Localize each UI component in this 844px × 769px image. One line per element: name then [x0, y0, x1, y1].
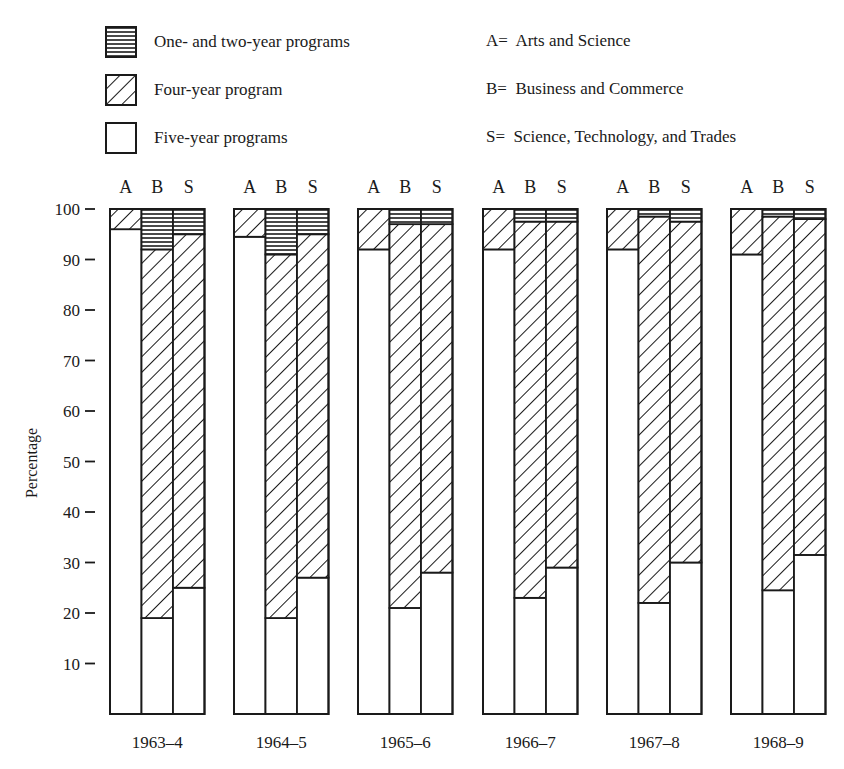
bar-segment-five: [670, 563, 702, 715]
bar-segment-five: [794, 555, 826, 714]
bar-group: ABS1967–8: [607, 177, 702, 752]
bar-segment-four: [173, 234, 205, 588]
y-tick-label: 20: [63, 604, 80, 623]
bar-segment-five: [266, 618, 298, 714]
bar-segment-four: [763, 217, 795, 591]
bar-letter-label: S: [308, 177, 318, 197]
bar-segment-one-two: [670, 209, 702, 222]
x-category-label: 1965–6: [380, 733, 431, 752]
bar-group: ABS1965–6: [358, 177, 453, 752]
bar-segment-one-two: [266, 209, 298, 254]
y-tick-label: 80: [63, 301, 80, 320]
bar-segment-four: [731, 209, 763, 254]
y-tick-label: 70: [63, 352, 80, 371]
bar-letter-label: B: [772, 177, 784, 197]
bar-segment-four: [546, 222, 578, 568]
bar-segment-five: [546, 568, 578, 714]
y-tick-label: 10: [63, 655, 80, 674]
bar-segment-one-two: [546, 209, 578, 222]
bar-segment-five: [639, 603, 671, 714]
bar-segment-one-two: [142, 209, 174, 249]
bar-segment-four: [794, 219, 826, 555]
bar-group: ABS1964–5: [234, 177, 329, 752]
y-tick-label: 50: [63, 453, 80, 472]
bar-segment-five: [390, 608, 422, 714]
x-category-label: 1964–5: [256, 733, 307, 752]
bar-segment-four: [390, 224, 422, 608]
bar-segment-four: [234, 209, 266, 237]
bar-letter-label: S: [557, 177, 567, 197]
bar-letter-label: A: [367, 177, 380, 197]
bar-segment-five: [483, 249, 515, 714]
bar-group: ABS1963–4: [110, 177, 205, 752]
bar-segment-five: [763, 590, 795, 714]
bar-letter-label: A: [616, 177, 629, 197]
y-axis: 102030405060708090100: [55, 200, 96, 674]
bar-segment-four: [110, 209, 142, 229]
bar-segment-four: [670, 222, 702, 563]
bar-letter-label: B: [151, 177, 163, 197]
bar-segment-four: [421, 224, 453, 572]
bar-segment-five: [173, 588, 205, 714]
bar-segment-five: [110, 229, 142, 714]
stacked-bar-chart: 102030405060708090100 Percentage ABS1963…: [0, 0, 844, 769]
bar-segment-four: [297, 234, 329, 577]
bar-segment-four: [515, 222, 547, 598]
bar-segment-one-two: [173, 209, 205, 234]
bar-groups: ABS1963–4ABS1964–5ABS1965–6ABS1966–7ABS1…: [110, 177, 826, 752]
bar-letter-label: B: [648, 177, 660, 197]
bar-segment-five: [731, 254, 763, 714]
y-tick-label: 30: [63, 554, 80, 573]
bar-letter-label: A: [243, 177, 256, 197]
bar-segment-four: [639, 217, 671, 603]
bar-letter-label: A: [492, 177, 505, 197]
bar-segment-one-two: [515, 209, 547, 222]
bar-letter-label: S: [184, 177, 194, 197]
bar-segment-five: [142, 618, 174, 714]
bar-letter-label: S: [805, 177, 815, 197]
y-tick-label: 100: [55, 200, 81, 219]
x-category-label: 1966–7: [505, 733, 557, 752]
bar-segment-five: [421, 573, 453, 714]
bar-group: ABS1968–9: [731, 177, 826, 752]
bar-letter-label: B: [524, 177, 536, 197]
bar-letter-label: A: [740, 177, 753, 197]
bar-letter-label: A: [119, 177, 132, 197]
bar-segment-one-two: [794, 209, 826, 219]
y-tick-label: 90: [63, 251, 80, 270]
bar-segment-four: [483, 209, 515, 249]
x-category-label: 1968–9: [753, 733, 804, 752]
bar-segment-five: [358, 249, 390, 714]
bar-segment-one-two: [639, 209, 671, 217]
bar-letter-label: B: [399, 177, 411, 197]
bar-segment-five: [607, 249, 639, 714]
bar-group: ABS1966–7: [483, 177, 578, 752]
bar-segment-four: [266, 254, 298, 618]
bar-segment-four: [142, 249, 174, 618]
bar-segment-one-two: [763, 209, 795, 217]
y-tick-label: 40: [63, 503, 80, 522]
bar-segment-five: [297, 578, 329, 714]
x-category-label: 1967–8: [629, 733, 680, 752]
bar-letter-label: S: [681, 177, 691, 197]
bar-segment-four: [358, 209, 390, 249]
bar-segment-one-two: [297, 209, 329, 234]
bar-segment-one-two: [421, 209, 453, 224]
y-axis-label: Percentage: [23, 428, 41, 498]
bar-segment-one-two: [390, 209, 422, 224]
bar-letter-label: S: [432, 177, 442, 197]
y-tick-label: 60: [63, 402, 80, 421]
bar-segment-four: [607, 209, 639, 249]
bar-segment-five: [515, 598, 547, 714]
x-category-label: 1963–4: [132, 733, 184, 752]
bar-segment-five: [234, 237, 266, 714]
bar-letter-label: B: [275, 177, 287, 197]
